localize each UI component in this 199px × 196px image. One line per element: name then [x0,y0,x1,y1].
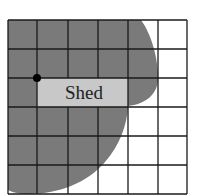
grid-diagram: Shed [0,0,199,196]
shed-label: Shed [65,82,104,103]
point-marker [33,74,41,82]
